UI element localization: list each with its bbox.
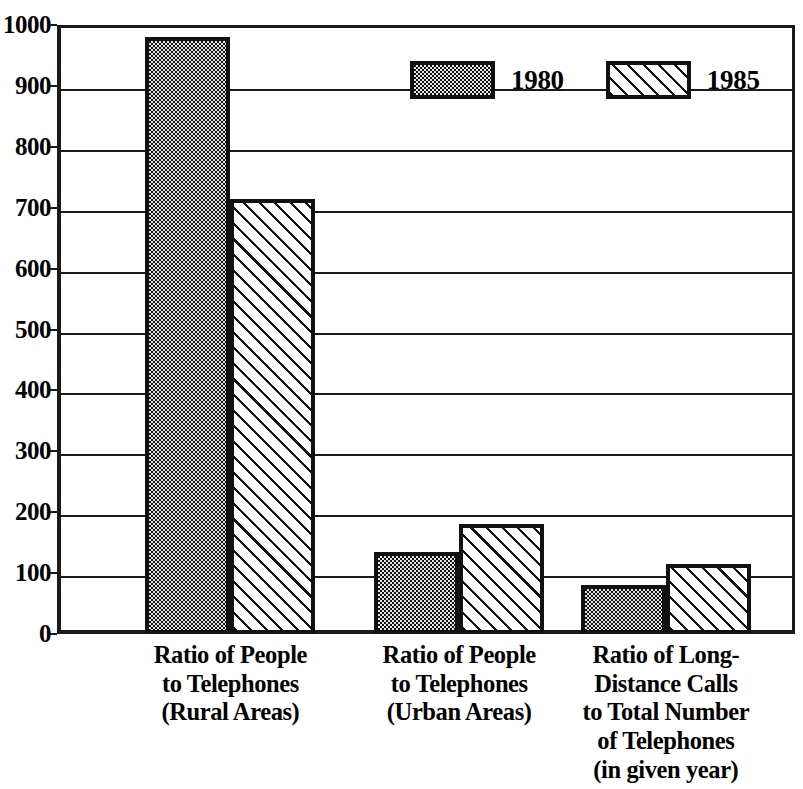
y-axis-tick-label: 500 (15, 316, 51, 344)
bar-1980-group3 (581, 585, 666, 634)
category-label-line: (in given year) (536, 756, 796, 785)
y-axis: 01002003004005006007008009001000 (0, 0, 54, 660)
y-axis-tick-mark (50, 85, 57, 87)
legend-label-1980: 1980 (511, 65, 564, 96)
y-axis-tick-mark (50, 572, 57, 574)
bar-1985-group1 (230, 199, 315, 634)
y-axis-tick-mark (50, 329, 57, 331)
y-axis-tick-mark (50, 511, 57, 513)
y-axis-tick-mark (50, 24, 57, 26)
legend-swatch-dots-icon (410, 61, 495, 99)
bar-chart: 01002003004005006007008009001000 1980 19… (0, 0, 803, 789)
y-axis-tick-mark (50, 389, 57, 391)
y-axis-tick-label: 100 (15, 559, 51, 587)
y-axis-tick-label: 900 (15, 72, 51, 100)
x-axis-category-label-3: Ratio of Long-Distance Callsto Total Num… (536, 641, 796, 784)
category-label-line: Ratio of Long- (536, 641, 796, 670)
legend-item-1980: 1980 (410, 61, 606, 99)
bar-1985-group3 (666, 564, 751, 634)
x-axis-category-labels: Ratio of Peopleto Telephones(Rural Areas… (57, 641, 795, 789)
category-label-line: (Rural Areas) (100, 698, 360, 727)
y-axis-tick-label: 700 (15, 194, 51, 222)
bar-1980-group2 (374, 552, 459, 634)
y-axis-tick-mark (50, 207, 57, 209)
category-label-line: Ratio of People (100, 641, 360, 670)
category-label-line: to Telephones (100, 670, 360, 699)
y-axis-tick-label: 400 (15, 376, 51, 404)
legend-swatch-hatch-icon (606, 61, 691, 99)
category-label-line: of Telephones (536, 727, 796, 756)
y-axis-tick-label: 600 (15, 255, 51, 283)
y-axis-tick-mark (50, 633, 57, 635)
category-label-line: Distance Calls (536, 670, 796, 699)
y-axis-tick-label: 1000 (3, 11, 51, 39)
bars-layer (57, 25, 795, 634)
y-axis-tick-label: 300 (15, 437, 51, 465)
y-axis-tick-label: 800 (15, 133, 51, 161)
legend: 1980 1985 (410, 61, 802, 99)
legend-label-1985: 1985 (707, 65, 760, 96)
y-axis-tick-mark (50, 450, 57, 452)
category-label-line: to Total Number (536, 698, 796, 727)
y-axis-tick-mark (50, 268, 57, 270)
bar-1980-group1 (145, 37, 230, 634)
legend-item-1985: 1985 (606, 61, 802, 99)
x-axis-category-label-1: Ratio of Peopleto Telephones(Rural Areas… (100, 641, 360, 727)
y-axis-tick-label: 200 (15, 498, 51, 526)
bar-1985-group2 (459, 524, 544, 634)
y-axis-tick-mark (50, 146, 57, 148)
